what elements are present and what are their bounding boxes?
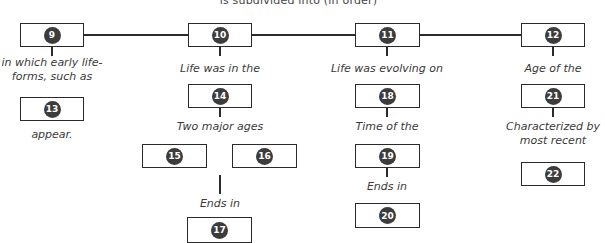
number-badge: 12 [545, 27, 562, 44]
label-line: forms, such as [0, 70, 104, 84]
connector [552, 108, 554, 117]
number-badge: 22 [545, 166, 562, 183]
number-badge: 16 [256, 148, 273, 165]
label-10: Life was in the [160, 62, 280, 76]
number-badge: 19 [379, 148, 396, 165]
number-badge: 13 [44, 101, 61, 118]
node-14[interactable]: 14 [188, 84, 252, 108]
node-20[interactable]: 20 [355, 203, 420, 228]
label-18: Time of the [327, 120, 447, 134]
label-11: Life was evolving on [317, 62, 457, 76]
node-18[interactable]: 18 [355, 84, 420, 108]
node-22[interactable]: 22 [521, 162, 585, 186]
node-10[interactable]: 10 [188, 23, 252, 47]
node-9[interactable]: 9 [20, 23, 84, 47]
node-15[interactable]: 15 [142, 144, 207, 168]
number-badge: 17 [211, 222, 228, 239]
node-16[interactable]: 16 [232, 144, 297, 168]
top-caption: is subdivided into (in order) [0, 0, 597, 7]
connector [219, 108, 221, 117]
node-12[interactable]: 12 [521, 23, 585, 47]
label-13: appear. [0, 128, 104, 142]
node-17[interactable]: 17 [187, 217, 252, 243]
connector [51, 47, 53, 56]
label-9: in which early life- forms, such as [0, 56, 104, 84]
connector [386, 108, 388, 117]
node-11[interactable]: 11 [355, 23, 420, 47]
number-badge: 15 [166, 148, 183, 165]
timeline-connector [84, 34, 521, 36]
number-badge: 10 [212, 27, 229, 44]
number-badge: 9 [44, 27, 61, 44]
node-19[interactable]: 19 [355, 144, 420, 168]
label-21: Characterized by most recent [497, 120, 605, 148]
connector [219, 175, 221, 194]
connector [552, 47, 554, 56]
connector [219, 47, 221, 56]
label-14: Two major ages [160, 120, 280, 134]
label-17: Ends in [160, 197, 280, 211]
label-line: Characterized by [497, 120, 605, 134]
label-line: in which early life- [0, 56, 104, 70]
number-badge: 11 [379, 27, 396, 44]
label-12: Age of the [497, 62, 605, 76]
number-badge: 14 [212, 88, 229, 105]
connector [386, 168, 388, 177]
number-badge: 20 [379, 207, 396, 224]
node-21[interactable]: 21 [521, 84, 585, 108]
node-13[interactable]: 13 [20, 97, 84, 121]
label-19: Ends in [327, 180, 447, 194]
label-line: most recent [497, 134, 605, 148]
number-badge: 21 [545, 88, 562, 105]
number-badge: 18 [379, 88, 396, 105]
connector [386, 47, 388, 56]
